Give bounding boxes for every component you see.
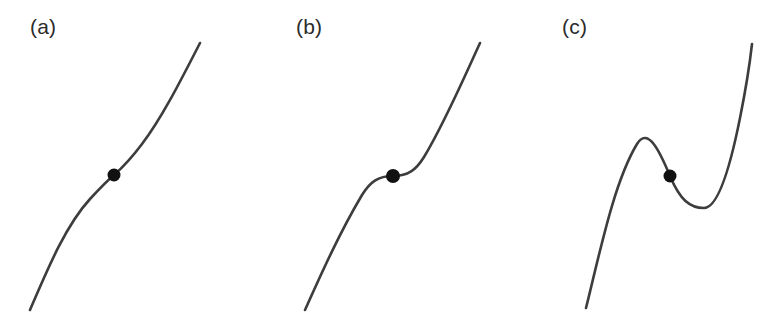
panel-c: (c) <box>532 0 777 317</box>
panel-c-plot <box>532 0 777 317</box>
figure-canvas: (a) (b) (c) <box>0 0 777 317</box>
panel-b: (b) <box>266 0 532 317</box>
inflection-point-marker <box>664 170 677 183</box>
panel-b-plot <box>266 0 532 317</box>
saddle-point-marker <box>386 169 400 183</box>
inflection-point-marker <box>108 169 121 182</box>
panel-a: (a) <box>0 0 266 317</box>
panel-a-plot <box>0 0 266 317</box>
